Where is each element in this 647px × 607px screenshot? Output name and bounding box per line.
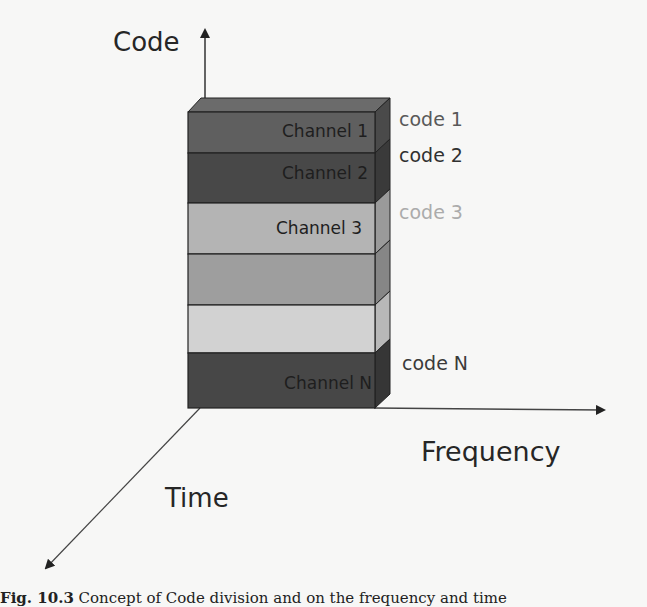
frequency-axis-label: Frequency xyxy=(421,436,560,467)
band-label-channel-2: Channel 2 xyxy=(282,163,368,183)
time-axis-label: Time xyxy=(165,483,229,513)
band-label-channel-1: Channel 1 xyxy=(282,121,368,141)
frequency-axis xyxy=(374,408,604,410)
block-top-face xyxy=(188,98,390,112)
code-label-3: code 3 xyxy=(399,201,463,223)
figure-caption: Fig. 10.3 Concept of Code division and o… xyxy=(0,589,507,607)
figure-caption-text: Concept of Code division and on the freq… xyxy=(79,589,507,607)
code-label-1: code 1 xyxy=(399,108,463,130)
band-label-channel-3: Channel 3 xyxy=(276,218,362,238)
code-label-n: code N xyxy=(402,352,468,374)
code-label-2: code 2 xyxy=(399,144,463,166)
band-label-channel-n: Channel N xyxy=(284,373,372,393)
figure-number: Fig. 10.3 xyxy=(0,589,74,607)
code-axis-label: Code xyxy=(113,27,180,57)
band-5 xyxy=(188,305,375,353)
band-4 xyxy=(188,254,375,305)
